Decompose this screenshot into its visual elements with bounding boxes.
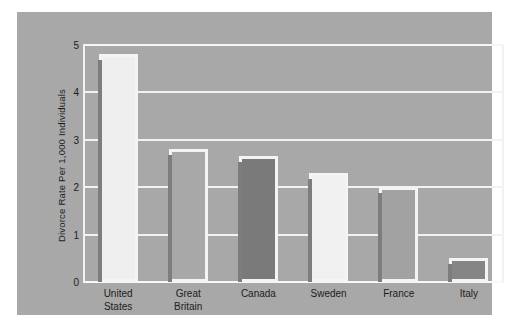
x-label-line: Britain	[153, 301, 223, 314]
x-axis-tick-labels: UnitedStatesGreatBritainCanadaSwedenFran…	[83, 288, 504, 328]
x-label-line: United	[83, 288, 153, 301]
x-label-line: Canada	[223, 288, 293, 301]
bar-italy	[449, 258, 488, 282]
bar-shadow	[308, 179, 312, 282]
x-label-line: Great	[153, 288, 223, 301]
chart-panel: Divorce Rate Per 1,000 Individuals 01234…	[17, 12, 492, 315]
x-label-line: Italy	[434, 288, 504, 301]
bar-shadow	[168, 155, 172, 282]
x-label-line: France	[364, 288, 434, 301]
x-tick-label-united-states: UnitedStates	[83, 288, 153, 313]
bar-shadow	[98, 60, 102, 282]
bar-shadow	[448, 264, 452, 282]
y-tick-label-4: 4	[57, 87, 79, 98]
bar-united-states	[99, 54, 138, 282]
bar-shadow	[238, 162, 242, 282]
y-tick-label-3: 3	[57, 134, 79, 145]
bar-shadow	[378, 193, 382, 282]
x-tick-label-france: France	[364, 288, 434, 301]
x-tick-label-great-britain: GreatBritain	[153, 288, 223, 313]
bars-layer	[83, 45, 504, 282]
divorce-rate-bar-chart: Divorce Rate Per 1,000 Individuals 01234…	[0, 0, 512, 331]
bar-france	[379, 187, 418, 282]
bar-great-britain	[169, 149, 208, 282]
y-axis-tick-labels: 012345	[55, 45, 79, 282]
x-label-line: States	[83, 301, 153, 314]
x-tick-label-italy: Italy	[434, 288, 504, 301]
bar-canada	[239, 156, 278, 282]
bar-sweden	[309, 173, 348, 282]
y-tick-label-2: 2	[57, 182, 79, 193]
y-tick-label-5: 5	[57, 40, 79, 51]
y-tick-label-0: 0	[57, 277, 79, 288]
y-tick-label-1: 1	[57, 229, 79, 240]
x-tick-label-canada: Canada	[223, 288, 293, 301]
x-label-line: Sweden	[294, 288, 364, 301]
x-tick-label-sweden: Sweden	[294, 288, 364, 301]
